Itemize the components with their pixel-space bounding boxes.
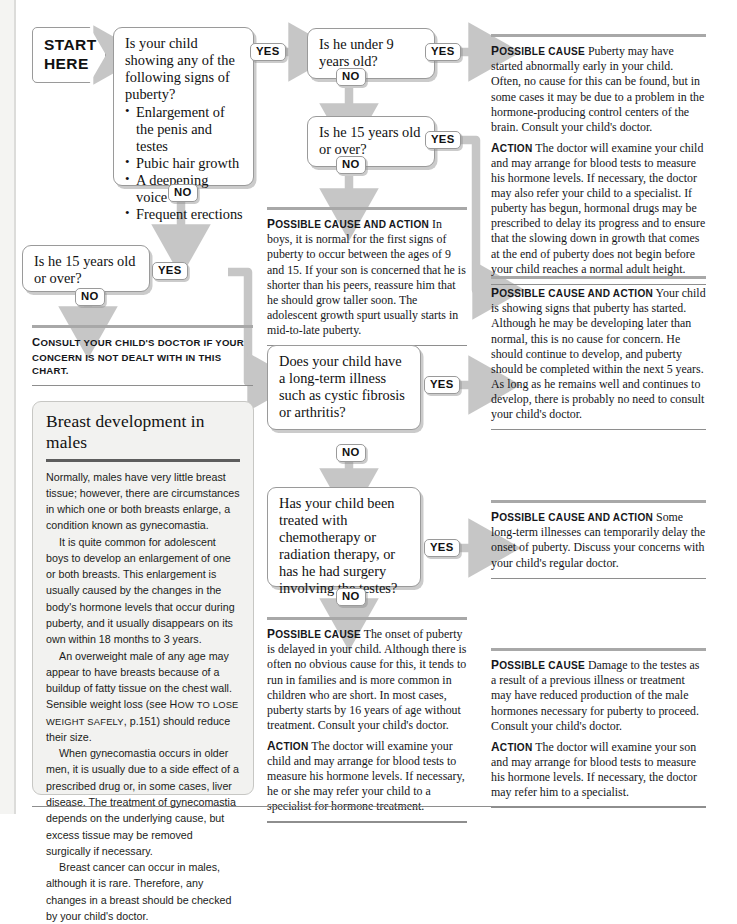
no-pill-15-left[interactable]: NO (75, 288, 105, 306)
advice-delayed-rule (267, 617, 467, 620)
question-cancer-treatment[interactable]: Has your child been treated with chemoth… (267, 487, 421, 587)
question-long-term-illness[interactable]: Does your child have a long-term illness… (267, 345, 421, 430)
question-under-9[interactable]: Is he under 9 years old? (307, 28, 435, 79)
yes-pill-15-left[interactable]: YES (152, 262, 188, 280)
advice-testes-action-lead: ACTION (491, 742, 533, 753)
advice-delayed-action-lead: ACTION (267, 741, 309, 752)
advice-normal-lead: POSSIBLE CAUSE AND ACTION (267, 219, 429, 230)
yes-pill-long-term[interactable]: YES (424, 376, 460, 394)
yes-pill-treatment[interactable]: YES (424, 539, 460, 557)
advice-illness-lead: POSSIBLE CAUSE AND ACTION (491, 512, 653, 523)
advice-normal-puberty-range: POSSIBLE CAUSE AND ACTION In boys, it is… (267, 207, 467, 346)
consult-lead-rest: ONSULT YOUR CHILD'S DOCTOR IF YOUR CONCE… (32, 337, 244, 376)
advice-delayed-cause-lead: POSSIBLE CAUSE (267, 629, 361, 640)
question-15-or-over-left[interactable]: Is he 15 years old or over? (22, 245, 150, 292)
advice-testes-cause: POSSIBLE CAUSE Damage to the testes as a… (491, 658, 706, 733)
infobox-paragraph-1: Normally, males have very little breast … (46, 469, 240, 534)
no-pill-15-middle[interactable]: NO (336, 156, 366, 174)
question-15-or-over-middle[interactable]: Is he 15 years old or over? (307, 116, 435, 167)
bullet-erections: Frequent erections (125, 206, 243, 223)
advice-normal-rule (267, 207, 467, 210)
advice-early-rule (491, 34, 706, 37)
bullet-pubic-hair: Pubic hair growth (125, 155, 243, 172)
question-15-or-over-left-text: Is he 15 years old or over? (34, 253, 139, 287)
question-cancer-treatment-text: Has your child been treated with chemoth… (279, 495, 410, 597)
advice-late-developer: POSSIBLE CAUSE AND ACTION Your child is … (491, 276, 706, 430)
advice-testes-rule-bottom (491, 807, 706, 808)
advice-delayed-rule-bottom (267, 821, 467, 822)
bullet-enlargement: Enlargement of the penis and testes (125, 104, 243, 155)
start-label-line2: HERE (44, 55, 105, 74)
question-signs-of-puberty[interactable]: Is your child showing any of the followi… (113, 27, 254, 186)
question-signs-stem: Is your child showing any of the followi… (125, 35, 243, 103)
yes-pill-15-middle[interactable]: YES (425, 131, 461, 149)
consult-doctor-text: CONSULT YOUR CHILD'S DOCTOR IF YOUR CONC… (32, 334, 253, 378)
consult-doctor-note: CONSULT YOUR CHILD'S DOCTOR IF YOUR CONC… (32, 325, 253, 386)
advice-early-action: ACTION The doctor will examine your chil… (491, 141, 706, 276)
infobox-paragraph-3: An overweight male of any age may appear… (46, 648, 240, 746)
advice-long-term-illness: POSSIBLE CAUSE AND ACTION Some long-term… (491, 500, 706, 579)
infobox-paragraph-2: It is quite common for adolescent boys t… (46, 534, 240, 648)
advice-delayed-action: ACTION The doctor will examine your chil… (267, 739, 467, 814)
advice-illness-rule-bottom (491, 578, 706, 579)
advice-early-cause-lead: POSSIBLE CAUSE (491, 46, 585, 57)
advice-testes-cause-lead: POSSIBLE CAUSE (491, 660, 585, 671)
advice-late-lead: POSSIBLE CAUSE AND ACTION (491, 288, 653, 299)
consult-rule-bottom (32, 385, 253, 386)
infobox-title: Breast development in males (46, 411, 240, 453)
no-pill-under-9[interactable]: NO (336, 68, 366, 86)
no-pill-signs[interactable]: NO (168, 184, 198, 202)
advice-testes-damage: POSSIBLE CAUSE Damage to the testes as a… (491, 648, 706, 808)
advice-illness-text: POSSIBLE CAUSE AND ACTION Some long-term… (491, 510, 706, 570)
advice-late-rule-bottom (491, 429, 706, 430)
advice-delayed-puberty: POSSIBLE CAUSE The onset of puberty is d… (267, 617, 467, 823)
yes-pill-under-9[interactable]: YES (425, 43, 461, 61)
infobox-paragraph-5: Breast cancer can occur in males, althou… (46, 859, 240, 924)
advice-delayed-cause: POSSIBLE CAUSE The onset of puberty is d… (267, 627, 467, 732)
yes-pill-signs[interactable]: YES (250, 43, 286, 61)
advice-late-text: POSSIBLE CAUSE AND ACTION Your child is … (491, 286, 706, 421)
start-label-line1: START (44, 36, 105, 55)
advice-late-rule (491, 276, 706, 279)
advice-illness-rule (491, 500, 706, 503)
question-15-or-over-middle-text: Is he 15 years old or over? (319, 124, 424, 158)
no-pill-treatment[interactable]: NO (336, 588, 366, 606)
advice-testes-action: ACTION The doctor will examine your son … (491, 740, 706, 800)
advice-early-cause: POSSIBLE CAUSE Puberty may have started … (491, 44, 706, 134)
advice-normal-text: POSSIBLE CAUSE AND ACTION In boys, it is… (267, 217, 467, 337)
advice-early-puberty: POSSIBLE CAUSE Puberty may have started … (491, 34, 706, 285)
infobox-title-rule (46, 459, 240, 462)
infobox-paragraph-4: When gynecomastia occurs in older men, i… (46, 745, 240, 859)
breast-development-infobox: Breast development in males Normally, ma… (32, 401, 254, 795)
question-under-9-text: Is he under 9 years old? (319, 36, 424, 70)
no-pill-long-term[interactable]: NO (336, 444, 366, 462)
question-signs-bullets: Enlargement of the penis and testes Pubi… (125, 104, 243, 223)
question-long-term-illness-text: Does your child have a long-term illness… (279, 353, 410, 421)
advice-testes-rule (491, 648, 706, 651)
advice-early-action-lead: ACTION (491, 143, 533, 154)
consult-rule-top (32, 325, 253, 328)
